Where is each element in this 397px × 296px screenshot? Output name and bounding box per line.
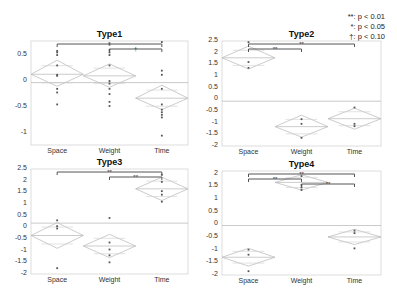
svg-text:**: ** <box>299 171 304 177</box>
svg-text:**: ** <box>273 176 278 182</box>
data-point <box>248 254 250 256</box>
means-diamond-time <box>328 229 381 244</box>
svg-text:**: ** <box>326 181 331 187</box>
data-point <box>354 247 356 249</box>
plot-area-type4: ****** <box>0 0 397 296</box>
data-point <box>354 230 356 232</box>
means-diamond-space <box>222 248 275 266</box>
data-point <box>354 232 356 234</box>
significance-bracket: ** <box>302 181 355 187</box>
data-point <box>248 270 250 272</box>
data-point <box>301 189 303 191</box>
significance-bracket: ** <box>249 171 355 177</box>
data-point <box>248 249 250 251</box>
